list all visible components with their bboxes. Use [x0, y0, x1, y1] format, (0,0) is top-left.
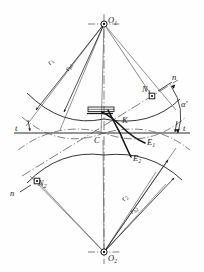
label-center-o2: O2: [108, 254, 117, 264]
marker-o2: [101, 249, 107, 255]
radius-arrows-gear2: [104, 160, 174, 252]
tangent-end-arrows: [28, 120, 177, 132]
label-profile-e2: E2: [133, 154, 141, 164]
radial-lines-gear1: [26, 24, 176, 133]
normal-bottom-tick: [20, 185, 31, 192]
radial-lines-gear2: [30, 140, 176, 252]
normal-top-tick: [158, 82, 172, 91]
label-pitch-point-c: C: [94, 136, 100, 145]
label-base-point-n2: N2: [38, 179, 47, 189]
label-profile-e1: E1: [147, 138, 155, 148]
label-normal-top-n: n: [172, 73, 176, 82]
label-base-point-n1: N1: [142, 85, 151, 95]
label-contact-point-k: K: [122, 116, 128, 125]
label-tangent-right-t: t: [183, 124, 185, 133]
marker-o1: [101, 21, 107, 27]
diagram-canvas: [0, 0, 204, 272]
label-center-o1: O1: [108, 16, 117, 26]
label-pressure-angle: α′: [181, 100, 187, 109]
gear-meshing-figure: O1 O2 C K N1 N2 r1 rb1 r2 rb2 t t n n α′: [0, 0, 204, 272]
label-normal-bottom-n: n: [10, 189, 14, 198]
label-tangent-left-t: t: [15, 124, 17, 133]
